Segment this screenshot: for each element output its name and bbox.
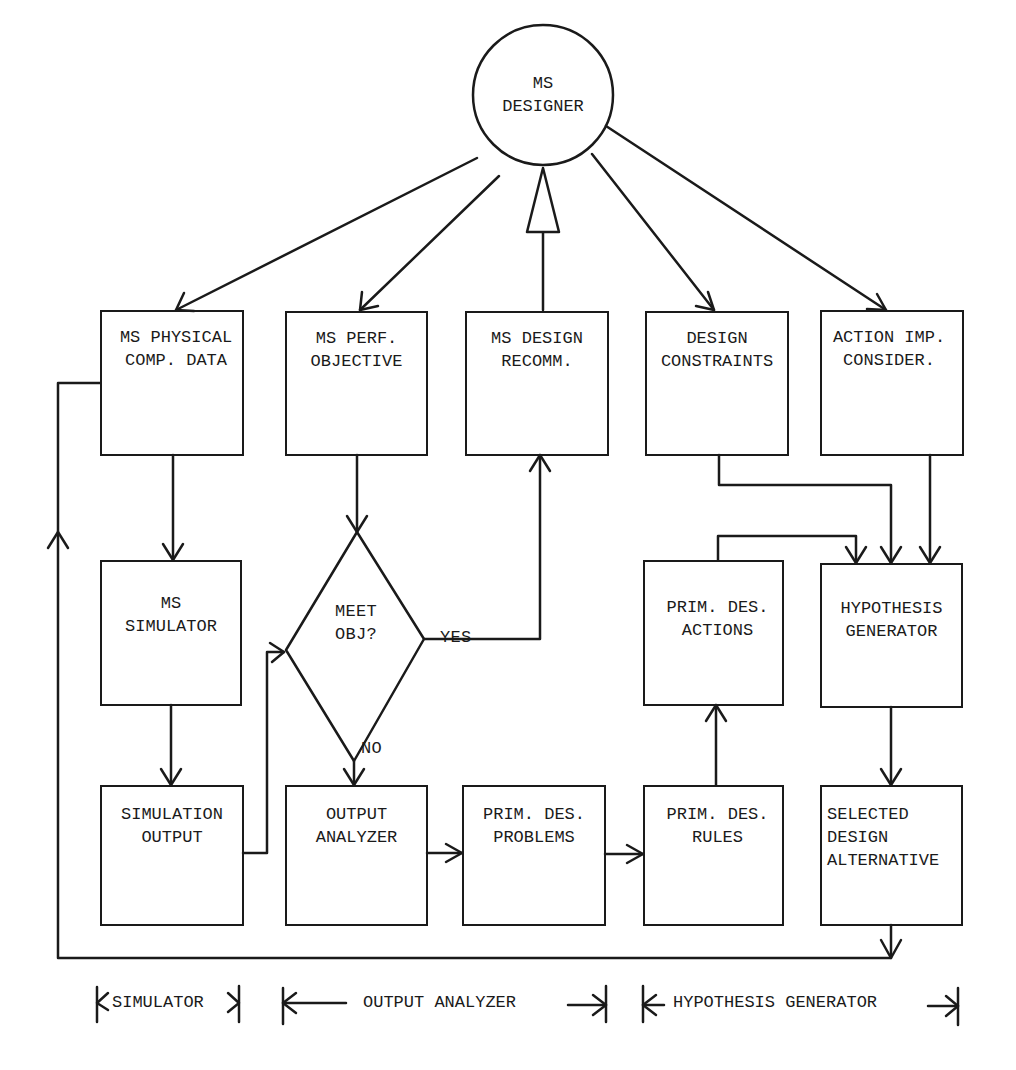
ms-perf-objective-box: MS PERF. OBJECTIVE (285, 311, 428, 456)
ms-physical-comp-data-box: MS PHYSICAL COMP. DATA (100, 310, 244, 456)
prim-des-actions-label: PRIM. DES. ACTIONS (653, 596, 782, 642)
legend-hypothesis-generator: HYPOTHESIS GENERATOR (673, 993, 877, 1013)
ms-physical-comp-data-label: MS PHYSICAL COMP. DATA (96, 326, 256, 372)
action-imp-consider-label: ACTION IMP. CONSIDER. (816, 326, 962, 372)
hypothesis-generator-box: HYPOTHESIS GENERATOR (820, 563, 963, 708)
no-label: NO (361, 737, 382, 760)
prim-des-problems-label: PRIM. DES. PROBLEMS (464, 803, 604, 849)
ms-simulator-label: MS SIMULATOR (102, 592, 240, 638)
hypothesis-generator-label: HYPOTHESIS GENERATOR (822, 597, 961, 643)
legend-simulator: SIMULATOR (112, 993, 204, 1013)
prim-des-problems-box: PRIM. DES. PROBLEMS (462, 785, 606, 926)
ms-perf-objective-label: MS PERF. OBJECTIVE (287, 327, 426, 373)
ms-design-recomm-box: MS DESIGN RECOMM. (465, 311, 609, 456)
action-imp-consider-box: ACTION IMP. CONSIDER. (820, 310, 964, 456)
design-constraints-label: DESIGN CONSTRAINTS (647, 327, 787, 373)
meet-obj-label: MEET OBJ? (296, 600, 416, 646)
selected-design-alternative-label: SELECTED DESIGN ALTERNATIVE (822, 803, 961, 872)
yes-label: YES (440, 626, 472, 649)
prim-des-rules-label: PRIM. DES. RULES (653, 803, 782, 849)
flowchart-diagram: MS DESIGNER MS PHYSICAL COMP. DATA MS PE… (0, 0, 1016, 1070)
output-analyzer-box: OUTPUT ANALYZER (285, 785, 428, 926)
ms-design-recomm-label: MS DESIGN RECOMM. (467, 327, 607, 373)
ms-designer-label: MS DESIGNER (473, 72, 613, 118)
selected-design-alternative-box: SELECTED DESIGN ALTERNATIVE (820, 785, 963, 926)
legend-output-analyzer: OUTPUT ANALYZER (363, 993, 516, 1013)
meet-obj-diamond (286, 532, 424, 761)
prim-des-actions-box: PRIM. DES. ACTIONS (643, 560, 784, 706)
prim-des-rules-box: PRIM. DES. RULES (643, 785, 784, 926)
ms-simulator-box: MS SIMULATOR (100, 560, 242, 706)
design-constraints-box: DESIGN CONSTRAINTS (645, 311, 789, 456)
output-analyzer-label: OUTPUT ANALYZER (287, 803, 426, 849)
simulation-output-box: SIMULATION OUTPUT (100, 785, 244, 926)
simulation-output-label: SIMULATION OUTPUT (102, 803, 242, 849)
